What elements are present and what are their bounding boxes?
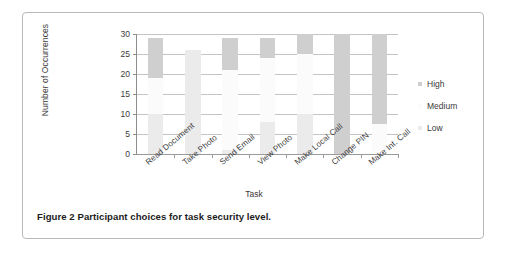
bar-segment-medium [260, 58, 276, 122]
bar-segment-high [372, 34, 388, 124]
bar-column [185, 50, 201, 154]
x-tick-mark [323, 154, 324, 158]
legend-item-low[interactable]: Low [418, 117, 488, 139]
bar-column [334, 34, 350, 154]
y-tick-label: 15 [121, 90, 130, 99]
bar-segment-high [222, 38, 238, 70]
y-tick-mark [133, 94, 137, 95]
bar-segment-medium [297, 54, 313, 114]
legend-label: Low [427, 124, 443, 133]
figure-caption: Figure 2 Participant choices for task se… [37, 211, 271, 222]
x-axis-title: Task [23, 189, 485, 199]
bar-column [372, 34, 388, 154]
x-tick-mark [398, 154, 399, 158]
legend-swatch-icon [418, 126, 422, 130]
y-tick-label: 30 [121, 30, 130, 39]
y-tick-mark [133, 74, 137, 75]
y-tick-mark [133, 34, 137, 35]
x-tick-mark [361, 154, 362, 158]
y-tick-mark [133, 114, 137, 115]
figure-card: Number of Occurrences 051015202530 Task … [22, 12, 484, 239]
y-tick-mark [133, 154, 137, 155]
bar-column [297, 34, 313, 154]
y-tick-label: 25 [121, 50, 130, 59]
bar-segment-high [334, 34, 350, 154]
bar-segment-high [297, 34, 313, 54]
y-tick-label: 10 [121, 110, 130, 119]
gridline [137, 34, 398, 35]
bar-segment-high [148, 38, 164, 78]
bar-column [222, 38, 238, 154]
chart-legend: HighMediumLow [418, 73, 488, 139]
bar-segment-low [185, 50, 201, 154]
bar-column [260, 38, 276, 154]
bar-segment-medium [222, 70, 238, 150]
y-tick-label: 5 [125, 130, 130, 139]
y-axis-title: Number of Occurrences [40, 10, 50, 130]
y-tick-label: 0 [125, 150, 130, 159]
legend-label: High [427, 80, 444, 89]
x-tick-mark [249, 154, 250, 158]
bar-column [148, 38, 164, 154]
y-tick-label: 20 [121, 70, 130, 79]
x-tick-mark [174, 154, 175, 158]
chart-area: Number of Occurrences 051015202530 Task … [23, 13, 485, 209]
legend-swatch-icon [418, 82, 422, 86]
legend-swatch-icon [418, 104, 422, 108]
legend-item-high[interactable]: High [418, 73, 488, 95]
y-tick-mark [133, 54, 137, 55]
bar-segment-medium [148, 78, 164, 114]
legend-label: Medium [427, 102, 457, 111]
bar-segment-high [260, 38, 276, 58]
x-tick-mark [212, 154, 213, 158]
y-tick-mark [133, 134, 137, 135]
x-tick-mark [286, 154, 287, 158]
legend-item-medium[interactable]: Medium [418, 95, 488, 117]
